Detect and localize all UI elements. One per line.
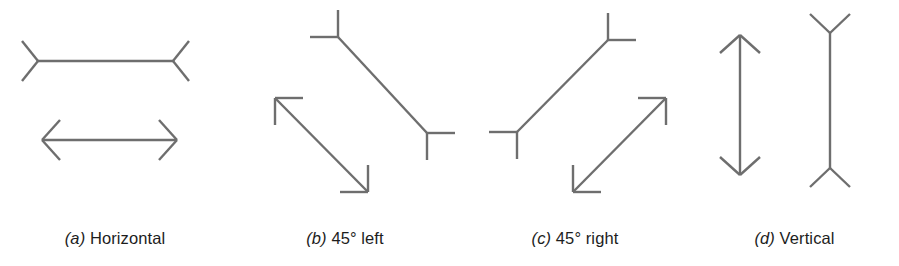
fins-in-arrows-fin-4 [740, 157, 760, 175]
caption-a: (a) Horizontal [0, 228, 230, 248]
caption-a-index: (a) [65, 229, 85, 247]
panel-c-45-right: (c) 45° right [460, 0, 690, 266]
fins-in-arrows-shaft [275, 98, 368, 192]
fins-in-arrows-fin-2 [740, 35, 760, 53]
caption-d-index: (d) [754, 229, 774, 247]
caption-c-index: (c) [532, 229, 552, 247]
caption-b-index: (b) [306, 229, 326, 247]
stimulus-c-fins-out-wings [489, 13, 636, 159]
fins-out-wings-shaft [517, 40, 608, 132]
stimulus-group-d [690, 0, 899, 226]
stimulus-group-a [0, 0, 230, 226]
fins-in-arrows-fin-4 [159, 140, 177, 160]
fins-out-wings-fin-2 [830, 14, 850, 33]
stimulus-a-fins-in-arrows [42, 120, 177, 160]
fins-out-wings-shaft [338, 37, 427, 133]
stimulus-b-fins-out-wings [310, 10, 455, 160]
fins-out-wings-fin-1 [22, 41, 38, 61]
panel-d-vertical: (d) Vertical [690, 0, 899, 266]
fins-in-arrows-fin-3 [159, 120, 177, 140]
fins-in-arrows-fin-2 [42, 140, 60, 160]
caption-d-text: Vertical [780, 229, 835, 247]
fins-out-wings-fin-2 [22, 61, 38, 81]
panel-b-45-left: (b) 45° left [230, 0, 460, 266]
caption-d: (d) Vertical [690, 228, 899, 248]
stimulus-group-b [230, 0, 460, 226]
stimulus-group-c [460, 0, 690, 226]
panel-a-horizontal: (a) Horizontal [0, 0, 230, 266]
fins-out-wings-fin-1 [810, 14, 830, 33]
fins-out-wings-fin-3 [810, 168, 830, 187]
stimulus-d-fins-in-arrows [720, 35, 760, 175]
fins-in-arrows-fin-1 [720, 35, 740, 53]
stimulus-c-fins-in-arrows [573, 98, 666, 192]
caption-b: (b) 45° left [230, 228, 460, 248]
muller-lyer-figure: (a) Horizontal (b) 45° left (c) 45° righ… [0, 0, 899, 266]
fins-out-wings-fin-4 [830, 168, 850, 187]
fins-out-wings-fin-4 [173, 61, 189, 81]
stimulus-a-fins-out-wings [22, 41, 189, 81]
fins-in-arrows-fin-3 [720, 157, 740, 175]
caption-c-text: 45° right [556, 229, 619, 247]
stimulus-b-fins-in-arrows [275, 98, 368, 192]
caption-c: (c) 45° right [460, 228, 690, 248]
stimulus-d-fins-out-wings [810, 14, 850, 187]
fins-out-wings-fin-3 [173, 41, 189, 61]
fins-in-arrows-fin-1 [42, 120, 60, 140]
caption-a-text: Horizontal [90, 229, 165, 247]
caption-b-text: 45° left [331, 229, 383, 247]
fins-in-arrows-shaft [573, 98, 666, 192]
